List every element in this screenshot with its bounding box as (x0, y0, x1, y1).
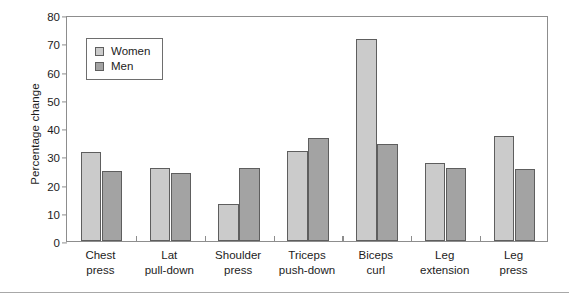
y-tick-label: 0 (54, 237, 60, 249)
x-category-label-line: pull-down (145, 263, 194, 278)
x-category-label-line: Leg (420, 248, 469, 263)
bar-women (287, 151, 308, 241)
x-category-label-line: curl (359, 263, 394, 278)
legend-label-women: Women (111, 46, 150, 58)
x-category-label-line: Lat (145, 248, 194, 263)
x-category-label-line: Biceps (359, 248, 394, 263)
legend: Women Men (86, 38, 163, 80)
y-tick-label: 80 (47, 11, 60, 23)
x-category-label-line: Chest (85, 248, 115, 263)
bar-men (308, 138, 329, 241)
x-category-label-line: Leg (500, 248, 528, 263)
bar-women (150, 168, 171, 241)
bottom-divider (0, 292, 569, 293)
bar-women (494, 136, 515, 241)
bar-women (425, 163, 446, 241)
bar-men (515, 169, 536, 241)
x-category-label: Shoulderpress (215, 248, 261, 277)
x-category-label-line: Shoulder (215, 248, 261, 263)
y-tick-label: 20 (47, 181, 60, 193)
x-category-label: Bicepscurl (359, 248, 394, 277)
x-category-label-line: Triceps (279, 248, 335, 263)
x-category-label-line: push-down (279, 263, 335, 278)
legend-swatch-women-icon (95, 47, 104, 56)
y-tick-label: 10 (47, 209, 60, 221)
bar-men (446, 168, 467, 241)
x-category-label: Latpull-down (145, 248, 194, 277)
bar-men (239, 168, 260, 241)
bar-men (102, 171, 123, 241)
legend-item-women: Women (95, 44, 150, 59)
legend-label-men: Men (111, 61, 133, 73)
y-tick-label: 70 (47, 39, 60, 51)
x-axis-category-labels: ChestpressLatpull-downShoulderpressTrice… (66, 248, 548, 288)
x-category-label-line: press (85, 263, 115, 278)
x-category-label: Legextension (420, 248, 469, 277)
y-tick-label: 50 (47, 96, 60, 108)
y-tick-label: 40 (47, 124, 60, 136)
bar-women (81, 152, 102, 241)
y-tick-mark (62, 242, 67, 243)
x-category-label-line: extension (420, 263, 469, 278)
bar-men (171, 173, 192, 241)
x-category-label-line: press (215, 263, 261, 278)
x-category-label-line: press (500, 263, 528, 278)
legend-item-men: Men (95, 59, 150, 74)
bar-chart-figure: Percentage change 80706050403020100 Wome… (0, 0, 569, 303)
bar-women (218, 204, 239, 241)
x-category-label: Chestpress (85, 248, 115, 277)
bar-men (377, 144, 398, 241)
x-category-label: Legpress (500, 248, 528, 277)
x-category-label: Tricepspush-down (279, 248, 335, 277)
legend-swatch-men-icon (95, 62, 104, 71)
bar-women (356, 39, 377, 241)
y-tick-label: 60 (47, 68, 60, 80)
y-axis-title: Percentage change (29, 44, 41, 224)
y-tick-label: 30 (47, 152, 60, 164)
